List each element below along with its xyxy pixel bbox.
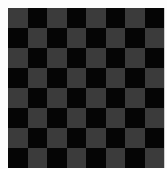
board-square: [106, 28, 126, 48]
board-square: [86, 108, 106, 128]
board-square: [47, 128, 67, 148]
board-square: [8, 28, 28, 48]
board-square: [28, 88, 48, 108]
board-square: [145, 88, 165, 108]
board-square: [125, 108, 145, 128]
board-square: [8, 128, 28, 148]
board-square: [145, 8, 165, 28]
board-square: [106, 128, 126, 148]
board-square: [125, 88, 145, 108]
board-square: [8, 88, 28, 108]
board-square: [86, 88, 106, 108]
board-square: [28, 108, 48, 128]
board-square: [47, 148, 67, 168]
board-square: [67, 148, 87, 168]
board-square: [28, 68, 48, 88]
board-square: [86, 128, 106, 148]
board-square: [47, 8, 67, 28]
board-square: [106, 108, 126, 128]
board-square: [86, 8, 106, 28]
board-square: [8, 148, 28, 168]
board-square: [28, 28, 48, 48]
board-square: [8, 8, 28, 28]
board-square: [67, 8, 87, 28]
board-square: [145, 28, 165, 48]
board-square: [47, 108, 67, 128]
board-square: [47, 28, 67, 48]
board-square: [28, 8, 48, 28]
board-square: [8, 108, 28, 128]
board-square: [145, 108, 165, 128]
board-square: [28, 148, 48, 168]
image-canvas: [0, 0, 167, 169]
board-square: [67, 128, 87, 148]
board-square: [86, 68, 106, 88]
board-square: [47, 68, 67, 88]
board-square: [106, 8, 126, 28]
board-square: [145, 148, 165, 168]
board-square: [145, 68, 165, 88]
board-square: [125, 148, 145, 168]
board-square: [8, 48, 28, 68]
board-square: [67, 28, 87, 48]
board-square: [86, 28, 106, 48]
board-square: [125, 8, 145, 28]
board-square: [67, 68, 87, 88]
board-square: [125, 68, 145, 88]
board-square: [86, 48, 106, 68]
board-square: [145, 128, 165, 148]
board-square: [28, 48, 48, 68]
board-square: [8, 68, 28, 88]
board-square: [67, 48, 87, 68]
board-square: [28, 128, 48, 148]
board-square: [47, 48, 67, 68]
checkerboard: [8, 8, 164, 168]
board-square: [125, 48, 145, 68]
board-square: [106, 68, 126, 88]
board-square: [145, 48, 165, 68]
board-square: [106, 48, 126, 68]
board-square: [125, 28, 145, 48]
board-square: [86, 148, 106, 168]
board-square: [106, 148, 126, 168]
board-square: [67, 88, 87, 108]
board-square: [47, 88, 67, 108]
board-square: [125, 128, 145, 148]
board-square: [106, 88, 126, 108]
board-square: [67, 108, 87, 128]
